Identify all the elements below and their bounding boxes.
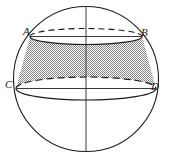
vertex-label-a: A (23, 26, 30, 37)
vertex-label-b: B (141, 27, 148, 38)
vertex-label-c: C (5, 79, 12, 90)
vertex-label-d: D (151, 81, 159, 92)
sphere-figure: A B C D (0, 0, 170, 163)
